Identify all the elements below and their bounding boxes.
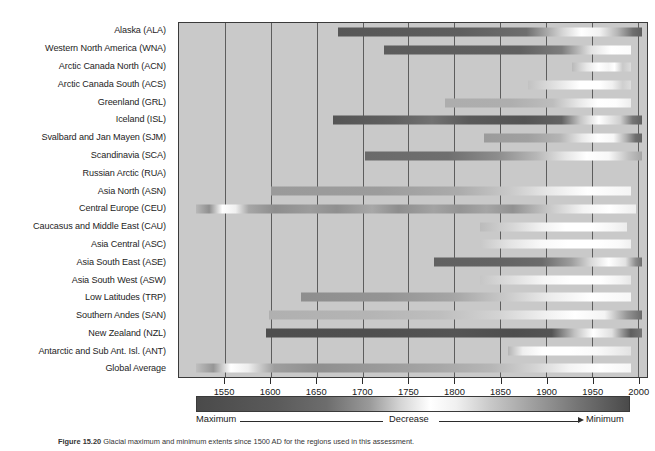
region-extent-bar — [301, 293, 631, 302]
chart-row — [179, 235, 647, 253]
region-extent-bar — [384, 45, 632, 54]
region-label: Asia South East (ASE) — [0, 253, 172, 271]
region-extent-bar — [333, 116, 642, 125]
colorbar-axis: Maximum Decrease Minimum — [178, 414, 648, 430]
region-extent-bar — [271, 187, 632, 196]
region-extent-bar — [480, 240, 631, 249]
region-label: Arctic Canada South (ACS) — [0, 75, 172, 93]
chart-row — [179, 200, 647, 218]
colorbar-label-minimum: Minimum — [586, 414, 624, 424]
chart-row — [179, 359, 647, 377]
region-label: Caucasus and Middle East (CAU) — [0, 218, 172, 236]
axis-tick — [362, 378, 363, 384]
axis-tick — [639, 378, 640, 384]
chart-row — [179, 289, 647, 307]
figure-container: Alaska (ALA)Western North America (WNA)A… — [0, 0, 655, 451]
region-label: Southern Andes (SAN) — [0, 307, 172, 325]
region-extent-bar — [445, 98, 631, 107]
axis-tick — [224, 378, 225, 384]
axis-tick — [408, 378, 409, 384]
region-extent-bar — [480, 275, 631, 284]
colorbar-rule-right — [439, 421, 578, 422]
colorbar-gradient — [196, 396, 630, 412]
region-extent-bar — [480, 222, 627, 231]
chart-row — [179, 218, 647, 236]
region-label: Asia North (ASN) — [0, 182, 172, 200]
chart-row — [179, 94, 647, 112]
region-extent-bar — [484, 134, 643, 143]
region-label: Iceland (ISL) — [0, 111, 172, 129]
region-extent-bar — [196, 364, 631, 373]
chart-plot-area — [178, 22, 648, 378]
region-label: Svalbard and Jan Mayen (SJM) — [0, 129, 172, 147]
region-label: New Zealand (NZL) — [0, 325, 172, 343]
region-label: Global Average — [0, 360, 172, 378]
region-label: Central Europe (CEU) — [0, 200, 172, 218]
figure-caption: Figure 15.20 Glacial maximum and minimum… — [58, 437, 648, 446]
chart-row — [179, 306, 647, 324]
axis-tick — [316, 378, 317, 384]
region-label: Asia Central (ASC) — [0, 236, 172, 254]
chart-row — [179, 23, 647, 41]
region-extent-bar — [434, 257, 642, 266]
colorbar-label-decrease: Decrease — [389, 414, 429, 424]
region-label: Scandinavia (SCA) — [0, 147, 172, 165]
region-label: Alaska (ALA) — [0, 22, 172, 40]
chart-row — [179, 324, 647, 342]
region-extent-bar — [572, 63, 632, 72]
chart-row — [179, 129, 647, 147]
axis-tick — [270, 378, 271, 384]
region-extent-bar — [269, 311, 642, 320]
axis-tick — [501, 378, 502, 384]
region-label: Antarctic and Sub Ant. Isl. (ANT) — [0, 342, 172, 360]
chart-row — [179, 165, 647, 183]
chart-row — [179, 76, 647, 94]
colorbar-rule-left — [240, 421, 383, 422]
chart-row — [179, 253, 647, 271]
axis-tick — [547, 378, 548, 384]
region-label: Arctic Canada North (ACN) — [0, 58, 172, 76]
caption-body: Glacial maximum and minimum extents sinc… — [103, 437, 414, 446]
region-label: Greenland (GRL) — [0, 93, 172, 111]
chart-row — [179, 342, 647, 360]
region-extent-bar — [528, 80, 632, 89]
colorbar-label-maximum: Maximum — [196, 414, 236, 424]
chart-row — [179, 271, 647, 289]
region-extent-bar — [196, 204, 636, 213]
axis-tick-label: 2000 — [628, 386, 649, 397]
axis-tick — [454, 378, 455, 384]
bar-rows — [179, 23, 647, 377]
colorbar — [196, 396, 630, 412]
caption-number: Figure 15.20 — [58, 437, 101, 446]
region-label-column: Alaska (ALA)Western North America (WNA)A… — [0, 22, 172, 378]
region-label: Low Latitudes (TRP) — [0, 289, 172, 307]
region-label: Russian Arctic (RUA) — [0, 164, 172, 182]
region-extent-bar — [338, 27, 643, 36]
chart-row — [179, 41, 647, 59]
region-label: Asia South West (ASW) — [0, 271, 172, 289]
chart-row — [179, 147, 647, 165]
region-extent-bar — [266, 328, 642, 337]
arrow-right-icon — [578, 417, 584, 423]
region-label: Western North America (WNA) — [0, 40, 172, 58]
chart-row — [179, 112, 647, 130]
region-extent-bar — [365, 151, 642, 160]
axis-tick — [593, 378, 594, 384]
chart-row — [179, 58, 647, 76]
chart-row — [179, 182, 647, 200]
region-extent-bar — [508, 346, 632, 355]
